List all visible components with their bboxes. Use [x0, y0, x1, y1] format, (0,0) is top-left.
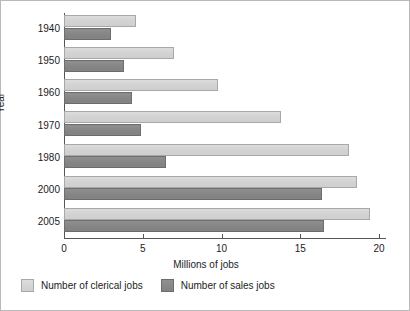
legend-swatch-sales-icon — [161, 279, 174, 292]
y-axis-tick-labels: 1940195019601970198020002005 — [12, 13, 60, 238]
y-tick-1980: 1980 — [14, 153, 60, 163]
x-tick-mark-10 — [222, 234, 223, 239]
bar-sales-1950 — [64, 60, 124, 72]
bar-group — [64, 45, 379, 77]
x-tick-label-5: 5 — [140, 244, 146, 254]
x-tick-mark-5 — [143, 234, 144, 239]
legend-label-sales: Number of sales jobs — [181, 280, 275, 291]
x-tick-label-20: 20 — [373, 244, 384, 254]
bar-group — [64, 13, 379, 45]
y-tick-1960: 1960 — [14, 88, 60, 98]
y-tick-1950: 1950 — [14, 56, 60, 66]
bar-clerical-1960 — [64, 79, 218, 91]
y-tick-1970: 1970 — [14, 121, 60, 131]
bar-group — [64, 142, 379, 174]
bar-sales-1940 — [64, 28, 111, 40]
bar-sales-1970 — [64, 124, 141, 136]
bar-group — [64, 174, 379, 206]
bar-sales-1980 — [64, 156, 166, 168]
x-axis-title: Millions of jobs — [1, 259, 410, 270]
bar-clerical-1940 — [64, 15, 136, 27]
legend-item-clerical: Number of clerical jobs — [21, 279, 143, 292]
bar-clerical-2005 — [64, 208, 370, 220]
y-tick-1940: 1940 — [14, 24, 60, 34]
bar-clerical-2000 — [64, 176, 357, 188]
y-tick-2005: 2005 — [14, 217, 60, 227]
legend-item-sales: Number of sales jobs — [161, 279, 275, 292]
x-tick-mark-15 — [300, 234, 301, 239]
chart-legend: Number of clerical jobsNumber of sales j… — [21, 279, 275, 292]
x-tick-label-10: 10 — [216, 244, 227, 254]
x-tick-label-15: 15 — [295, 244, 306, 254]
plot-area — [64, 13, 379, 238]
y-axis-title: Year — [0, 93, 6, 113]
bar-sales-2005 — [64, 220, 324, 232]
bar-clerical-1970 — [64, 111, 281, 123]
x-tick-label-0: 0 — [61, 244, 67, 254]
x-tick-mark-20 — [379, 234, 380, 239]
y-tick-2000: 2000 — [14, 185, 60, 195]
legend-label-clerical: Number of clerical jobs — [41, 280, 143, 291]
bar-sales-2000 — [64, 188, 322, 200]
legend-swatch-clerical-icon — [21, 279, 34, 292]
bar-sales-1960 — [64, 92, 132, 104]
x-axis-ticks: 05101520 — [64, 238, 386, 260]
bar-group — [64, 109, 379, 141]
bar-group — [64, 77, 379, 109]
chart-figure: Year 1940195019601970198020002005 051015… — [0, 0, 410, 311]
bar-clerical-1980 — [64, 144, 349, 156]
bar-clerical-1950 — [64, 47, 174, 59]
